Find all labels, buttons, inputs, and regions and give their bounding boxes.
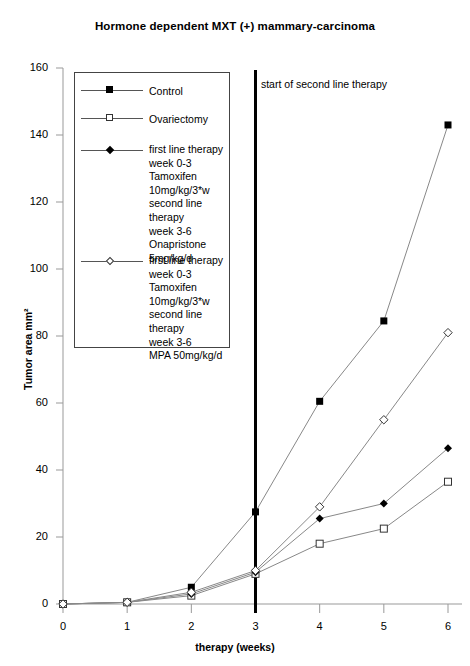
x-axis-tick-label: 0 bbox=[48, 620, 78, 632]
legend-label: Control bbox=[149, 85, 183, 99]
x-axis-title: therapy (weeks) bbox=[0, 641, 470, 653]
plot-area bbox=[0, 0, 470, 666]
legend-label: first line therapy week 0-3 Tamoxifen 10… bbox=[149, 143, 231, 265]
x-axis-tick-label: 3 bbox=[241, 620, 271, 632]
x-axis-tick-label: 4 bbox=[305, 620, 335, 632]
x-axis-tick-label: 2 bbox=[176, 620, 206, 632]
legend: Control Ovariectomy first line therapy w… bbox=[74, 72, 230, 348]
legend-marker-filled-diamond-icon bbox=[81, 145, 143, 155]
y-axis-tick-label: 60 bbox=[8, 396, 48, 408]
x-axis-tick-label: 6 bbox=[433, 620, 463, 632]
y-axis-tick-label: 160 bbox=[8, 61, 48, 73]
legend-marker-filled-square-icon bbox=[81, 85, 143, 95]
legend-marker-open-square-icon bbox=[81, 113, 143, 123]
chart-root: Hormone dependent MXT (+) mammary-carcin… bbox=[0, 0, 470, 666]
legend-label: first line therapy week 0-3 Tamoxifen 10… bbox=[149, 254, 231, 363]
y-axis-title: Tumor area mm² bbox=[22, 309, 34, 391]
second-line-therapy-annotation: start of second line therapy bbox=[259, 78, 389, 92]
y-axis-tick-label: 140 bbox=[8, 128, 48, 140]
y-axis-tick-label: 100 bbox=[8, 262, 48, 274]
x-axis-tick-label: 5 bbox=[369, 620, 399, 632]
y-axis-tick-label: 120 bbox=[8, 195, 48, 207]
y-axis-tick-label: 80 bbox=[8, 329, 48, 341]
x-axis-tick-label: 1 bbox=[112, 620, 142, 632]
legend-marker-open-diamond-icon bbox=[81, 256, 143, 266]
y-axis-tick-label: 0 bbox=[8, 597, 48, 609]
legend-label: Ovariectomy bbox=[149, 113, 208, 127]
y-axis-tick-label: 40 bbox=[8, 463, 48, 475]
y-axis-tick-label: 20 bbox=[8, 530, 48, 542]
